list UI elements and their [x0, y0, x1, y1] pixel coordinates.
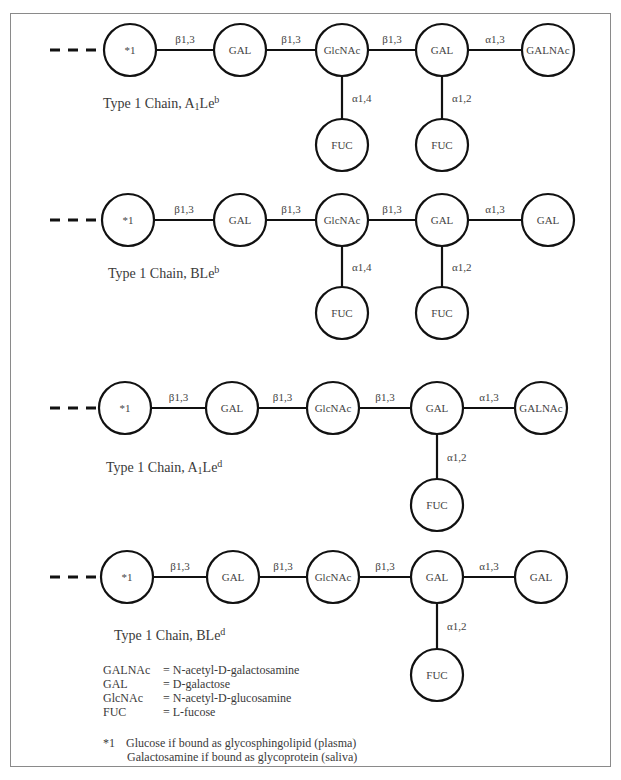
caption-mid: Le	[203, 460, 218, 475]
sugar-label: GAL	[431, 214, 454, 226]
bond-label: β1,3	[382, 203, 402, 215]
footnote: *1Glucose if bound as glycosphingolipid …	[103, 736, 357, 764]
bond-label: α1,3	[485, 203, 505, 215]
bond-label: α1,3	[485, 33, 505, 45]
sugar-label: FUC	[431, 139, 452, 151]
footnote-row: *1Glucose if bound as glycosphingolipid …	[103, 736, 357, 750]
bond-label: α1,2	[452, 261, 472, 273]
sugar-label: GlcNAc	[324, 214, 361, 226]
legend-row: FUC= L-fucose	[103, 705, 299, 719]
sugar-label: FUC	[426, 499, 447, 511]
caption-base: B	[196, 628, 205, 643]
sugar-label: GAL	[537, 214, 560, 226]
sugar-label: GAL	[229, 214, 252, 226]
bond-label: α1,3	[479, 560, 499, 572]
bond-label: β1,3	[169, 391, 189, 403]
sugar-label: GAL	[431, 44, 454, 56]
legend-row: GAL= D-galactose	[103, 677, 299, 691]
legend-value: = N-acetyl-D-glucosamine	[163, 691, 291, 705]
legend-key: FUC	[103, 705, 163, 719]
sugar-label: FUC	[331, 307, 352, 319]
caption-prefix: Type 1 Chain,	[106, 460, 187, 475]
caption-mid: Le	[206, 628, 221, 643]
bond-label: β1,3	[174, 203, 194, 215]
caption-prefix: Type 1 Chain,	[103, 96, 184, 111]
abbreviation-legend: GALNAc= N-acetyl-D-galactosamine GAL= D-…	[103, 663, 299, 719]
sugar-label: GAL	[221, 402, 244, 414]
bond-label: α1,2	[452, 92, 472, 104]
footnote-line: Glucose if bound as glycosphingolipid (p…	[126, 736, 356, 750]
footnote-key: *1	[103, 736, 126, 750]
sugar-label: *1	[122, 571, 133, 583]
caption-base: A	[184, 96, 194, 111]
sugar-label: FUC	[426, 669, 447, 681]
legend-key: GAL	[103, 677, 163, 691]
sugar-label: GALNAc	[526, 44, 569, 56]
sugar-label: GAL	[426, 571, 449, 583]
caption-base: B	[190, 266, 199, 281]
caption-a1led: Type 1 Chain, A1Led	[106, 458, 222, 476]
sugar-label: GlcNAc	[315, 571, 352, 583]
caption-a1leb: Type 1 Chain, A1Leb	[103, 94, 219, 112]
sugar-label: GAL	[229, 44, 252, 56]
bond-label: β1,3	[281, 203, 301, 215]
bond-label: β1,3	[273, 391, 293, 403]
sugar-label: *1	[120, 402, 131, 414]
legend-key: GALNAc	[103, 663, 163, 677]
caption-base: A	[187, 460, 197, 475]
caption-superscript: b	[214, 264, 219, 275]
caption-bleb: Type 1 Chain, BLeb	[108, 264, 219, 282]
caption-prefix: Type 1 Chain,	[114, 628, 196, 643]
bond-label: β1,3	[281, 33, 301, 45]
legend-value: = D-galactose	[163, 677, 230, 691]
bond-label: β1,3	[382, 33, 402, 45]
bond-label: α1,4	[352, 92, 372, 104]
caption-bled: Type 1 Chain, BLed	[114, 626, 225, 644]
sugar-label: *1	[125, 44, 136, 56]
sugar-label: GlcNAc	[315, 402, 352, 414]
bond-label: β1,3	[175, 33, 195, 45]
sugar-label: GAL	[222, 571, 245, 583]
caption-prefix: Type 1 Chain,	[108, 266, 190, 281]
sugar-label: *1	[123, 214, 134, 226]
sugar-label: GALNAc	[519, 402, 562, 414]
legend-row: GALNAc= N-acetyl-D-galactosamine	[103, 663, 299, 677]
footnote-indent	[103, 750, 126, 764]
caption-superscript: d	[217, 458, 222, 469]
sugar-label: FUC	[331, 139, 352, 151]
legend-key: GlcNAc	[103, 691, 163, 705]
footnote-line: Galactosamine if bound as glycoprotein (…	[127, 750, 357, 764]
bond-label: β1,3	[375, 391, 395, 403]
bond-label: α1,2	[447, 620, 467, 632]
bond-label: β1,3	[375, 560, 395, 572]
legend-value: = N-acetyl-D-galactosamine	[163, 663, 299, 677]
caption-superscript: b	[214, 94, 219, 105]
caption-superscript: d	[220, 626, 225, 637]
sugar-label: GAL	[426, 402, 449, 414]
bond-label: β1,3	[273, 560, 293, 572]
bond-label: α1,4	[352, 261, 372, 273]
caption-mid: Le	[200, 96, 215, 111]
legend-value: = L-fucose	[163, 705, 215, 719]
sugar-label: GlcNAc	[324, 44, 361, 56]
sugar-label: GAL	[530, 571, 553, 583]
sugar-label: FUC	[431, 307, 452, 319]
bond-label: α1,3	[479, 391, 499, 403]
bond-label: β1,3	[170, 560, 190, 572]
caption-mid: Le	[200, 266, 215, 281]
footnote-row: Galactosamine if bound as glycoprotein (…	[103, 750, 357, 764]
legend-row: GlcNAc= N-acetyl-D-glucosamine	[103, 691, 299, 705]
glycan-chain-diagrams: β1,3β1,3β1,3α1,3α1,4FUCα1,2FUC*1GALGlcNA…	[0, 0, 621, 780]
bond-label: α1,2	[447, 451, 467, 463]
